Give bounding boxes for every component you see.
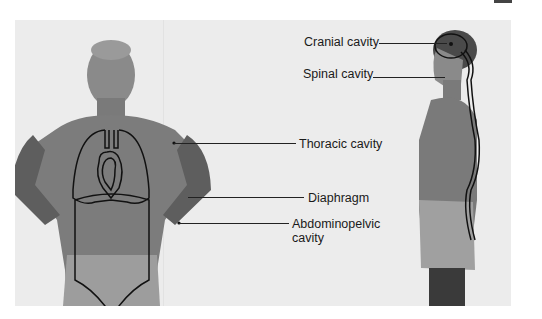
abdominopelvic-leader-line (179, 223, 289, 224)
label-cranial-cavity: Cranial cavity (304, 35, 379, 49)
label-abdominopelvic: Abdominopelvic (292, 217, 380, 231)
label-thoracic-cavity: Thoracic cavity (299, 137, 382, 151)
anterior-figure (15, 40, 211, 306)
label-spinal-cavity: Spinal cavity (303, 67, 373, 81)
page-corner-mark (494, 0, 512, 3)
cranial-leader-line (379, 43, 447, 44)
thoracic-leader-line (174, 143, 296, 144)
top-margin (0, 0, 542, 20)
diaphragm-leader-line (188, 197, 304, 198)
figure-photo (15, 20, 511, 306)
figure-illustration (15, 20, 511, 306)
spinal-leader-line (373, 77, 445, 78)
label-abdominopelvic-cavity: cavity (292, 231, 324, 245)
label-diaphragm: Diaphragm (308, 191, 369, 205)
